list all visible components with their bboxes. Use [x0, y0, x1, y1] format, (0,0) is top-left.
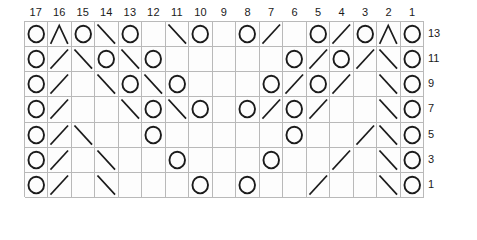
- cell-r3-c10-blank[interactable]: [189, 148, 212, 173]
- cell-r1-c11-blank[interactable]: [166, 173, 189, 198]
- cell-r11-c2-backslash[interactable]: [377, 47, 400, 72]
- cell-r7-c5-slash[interactable]: [307, 97, 330, 122]
- cell-r13-c8-circle[interactable]: [236, 22, 259, 47]
- cell-r9-c11-circle[interactable]: [166, 72, 189, 97]
- cell-r13-c3-circle[interactable]: [354, 22, 377, 47]
- cell-r3-c16-slash[interactable]: [48, 148, 71, 173]
- cell-r3-c5-blank[interactable]: [307, 148, 330, 173]
- cell-r1-c3-blank[interactable]: [354, 173, 377, 198]
- cell-r13-c15-circle[interactable]: [72, 22, 95, 47]
- cell-r11-c14-circle[interactable]: [95, 47, 118, 72]
- cell-r3-c3-blank[interactable]: [354, 148, 377, 173]
- cell-r11-c4-circle[interactable]: [330, 47, 353, 72]
- cell-r11-c7-blank[interactable]: [260, 47, 283, 72]
- cell-r13-c11-backslash[interactable]: [166, 22, 189, 47]
- cell-r1-c9-blank[interactable]: [213, 173, 236, 198]
- cell-r9-c9-blank[interactable]: [213, 72, 236, 97]
- cell-r11-c12-circle[interactable]: [142, 47, 165, 72]
- cell-r11-c9-blank[interactable]: [213, 47, 236, 72]
- cell-r11-c6-circle[interactable]: [283, 47, 306, 72]
- cell-r5-c9-blank[interactable]: [213, 123, 236, 148]
- cell-r5-c5-blank[interactable]: [307, 123, 330, 148]
- cell-r7-c7-slash[interactable]: [260, 97, 283, 122]
- cell-r1-c1-circle[interactable]: [401, 173, 424, 198]
- cell-r9-c2-backslash[interactable]: [377, 72, 400, 97]
- cell-r1-c12-blank[interactable]: [142, 173, 165, 198]
- cell-r1-c13-blank[interactable]: [119, 173, 142, 198]
- cell-r7-c2-backslash[interactable]: [377, 97, 400, 122]
- cell-r7-c4-blank[interactable]: [330, 97, 353, 122]
- cell-r5-c15-backslash[interactable]: [72, 123, 95, 148]
- cell-r9-c13-circle[interactable]: [119, 72, 142, 97]
- cell-r5-c7-blank[interactable]: [260, 123, 283, 148]
- cell-r3-c6-blank[interactable]: [283, 148, 306, 173]
- cell-r5-c4-blank[interactable]: [330, 123, 353, 148]
- cell-r9-c4-slash[interactable]: [330, 72, 353, 97]
- cell-r5-c3-slash[interactable]: [354, 123, 377, 148]
- cell-r11-c17-circle[interactable]: [25, 47, 48, 72]
- cell-r1-c10-circle[interactable]: [189, 173, 212, 198]
- cell-r9-c12-backslash[interactable]: [142, 72, 165, 97]
- cell-r7-c13-backslash[interactable]: [119, 97, 142, 122]
- cell-r3-c1-circle[interactable]: [401, 148, 424, 173]
- cell-r9-c10-blank[interactable]: [189, 72, 212, 97]
- cell-r5-c10-blank[interactable]: [189, 123, 212, 148]
- cell-r5-c11-blank[interactable]: [166, 123, 189, 148]
- cell-r13-c2-peak[interactable]: [377, 22, 400, 47]
- cell-r1-c6-blank[interactable]: [283, 173, 306, 198]
- cell-r5-c1-circle[interactable]: [401, 123, 424, 148]
- cell-r13-c6-blank[interactable]: [283, 22, 306, 47]
- cell-r5-c16-slash[interactable]: [48, 123, 71, 148]
- cell-r3-c2-backslash[interactable]: [377, 148, 400, 173]
- cell-r9-c7-circle[interactable]: [260, 72, 283, 97]
- cell-r11-c8-blank[interactable]: [236, 47, 259, 72]
- cell-r3-c4-slash[interactable]: [330, 148, 353, 173]
- cell-r11-c16-slash[interactable]: [48, 47, 71, 72]
- cell-r13-c14-backslash[interactable]: [95, 22, 118, 47]
- cell-r11-c1-circle[interactable]: [401, 47, 424, 72]
- cell-r13-c9-blank[interactable]: [213, 22, 236, 47]
- cell-r7-c17-circle[interactable]: [25, 97, 48, 122]
- cell-r9-c8-blank[interactable]: [236, 72, 259, 97]
- cell-r9-c1-circle[interactable]: [401, 72, 424, 97]
- cell-r11-c11-blank[interactable]: [166, 47, 189, 72]
- cell-r1-c2-backslash[interactable]: [377, 173, 400, 198]
- cell-r7-c1-circle[interactable]: [401, 97, 424, 122]
- cell-r5-c17-circle[interactable]: [25, 123, 48, 148]
- cell-r13-c4-slash[interactable]: [330, 22, 353, 47]
- cell-r9-c14-backslash[interactable]: [95, 72, 118, 97]
- cell-r9-c17-circle[interactable]: [25, 72, 48, 97]
- cell-r1-c14-backslash[interactable]: [95, 173, 118, 198]
- cell-r5-c12-circle[interactable]: [142, 123, 165, 148]
- cell-r7-c15-blank[interactable]: [72, 97, 95, 122]
- cell-r9-c3-blank[interactable]: [354, 72, 377, 97]
- cell-r7-c8-circle[interactable]: [236, 97, 259, 122]
- cell-r3-c8-blank[interactable]: [236, 148, 259, 173]
- cell-r13-c16-peak[interactable]: [48, 22, 71, 47]
- cell-r3-c7-circle[interactable]: [260, 148, 283, 173]
- cell-r5-c13-blank[interactable]: [119, 123, 142, 148]
- cell-r13-c1-circle[interactable]: [401, 22, 424, 47]
- cell-r7-c11-backslash[interactable]: [166, 97, 189, 122]
- cell-r3-c12-blank[interactable]: [142, 148, 165, 173]
- cell-r13-c7-slash[interactable]: [260, 22, 283, 47]
- cell-r5-c14-blank[interactable]: [95, 123, 118, 148]
- cell-r11-c5-slash[interactable]: [307, 47, 330, 72]
- cell-r9-c16-slash[interactable]: [48, 72, 71, 97]
- cell-r1-c5-slash[interactable]: [307, 173, 330, 198]
- cell-r1-c15-blank[interactable]: [72, 173, 95, 198]
- cell-r13-c12-blank[interactable]: [142, 22, 165, 47]
- cell-r7-c14-blank[interactable]: [95, 97, 118, 122]
- cell-r5-c2-backslash[interactable]: [377, 123, 400, 148]
- cell-r5-c8-blank[interactable]: [236, 123, 259, 148]
- cell-r11-c13-backslash[interactable]: [119, 47, 142, 72]
- cell-r7-c9-blank[interactable]: [213, 97, 236, 122]
- cell-r7-c3-blank[interactable]: [354, 97, 377, 122]
- cell-r11-c3-slash[interactable]: [354, 47, 377, 72]
- cell-r9-c15-blank[interactable]: [72, 72, 95, 97]
- cell-r1-c4-blank[interactable]: [330, 173, 353, 198]
- cell-r1-c16-slash[interactable]: [48, 173, 71, 198]
- cell-r3-c15-blank[interactable]: [72, 148, 95, 173]
- cell-r11-c10-blank[interactable]: [189, 47, 212, 72]
- cell-r5-c6-circle[interactable]: [283, 123, 306, 148]
